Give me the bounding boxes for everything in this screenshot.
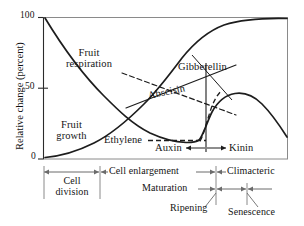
- label-kinin: Kinin: [229, 142, 253, 153]
- band-cell-division-arrow-right: [94, 170, 99, 175]
- y-tick-label-50: 50: [25, 82, 35, 92]
- band-senescence-arrow-left: [248, 187, 253, 192]
- label-gibberellin: Gibberellin: [178, 61, 227, 72]
- band-cell-enlargement-arrow-left: [101, 170, 106, 175]
- label-senescence: Senescence: [228, 207, 275, 218]
- band-ripening-arrow-left: [217, 187, 222, 192]
- label-cell-division-line2: division: [47, 187, 97, 198]
- arrow-auxin-head: [186, 145, 191, 150]
- y-tick-label-100: 100: [20, 11, 35, 21]
- label-climacteric: Climacteric: [227, 166, 275, 177]
- label-cell-enlargement: Cell enlargement: [109, 166, 179, 177]
- band-cell-division-arrow-left: [44, 170, 49, 175]
- label-fruit-growth-line1: Fruit: [49, 119, 94, 130]
- label-fruit-respiration-line1: Fruit: [58, 47, 120, 58]
- band-climacteric-arrow-left: [217, 170, 222, 175]
- arrow-kinin-head: [221, 145, 226, 150]
- label-cell-division-line1: Cell: [47, 176, 97, 187]
- label-ethylene: Ethylene: [104, 134, 142, 145]
- band-ripening-arrow-right: [241, 187, 246, 192]
- label-auxin: Auxin: [155, 142, 182, 153]
- y-tick-label-0: 0: [31, 152, 36, 162]
- leader-senescence: [247, 193, 258, 207]
- label-ripening: Ripening: [170, 203, 207, 214]
- band-cell-enlargement-arrow-right: [210, 170, 215, 175]
- label-maturation: Maturation: [142, 183, 187, 194]
- y-axis-label: Relative change (percent): [14, 42, 25, 150]
- band-maturation-arrow-right: [210, 187, 215, 192]
- label-fruit-respiration-line2: respiration: [58, 58, 120, 69]
- fruit-development-figure: Relative change (percent) 100 50 0 Fruit…: [0, 0, 304, 226]
- label-fruit-growth-line2: growth: [49, 130, 94, 141]
